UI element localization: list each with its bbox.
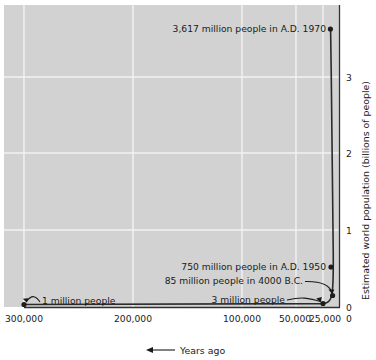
x-axis-title: Years ago bbox=[179, 345, 225, 356]
x-tick-label-0: 0 bbox=[346, 313, 352, 324]
y-tick-label-1: 1 bbox=[346, 225, 352, 236]
x-tick-label-200000: 200,000 bbox=[114, 313, 152, 324]
x-tick-label-300000: 300,000 bbox=[5, 313, 43, 324]
y-axis-title: Estimated world population (billions of … bbox=[360, 81, 371, 300]
annotation-3-million: 3 million people bbox=[212, 294, 286, 305]
annotation-1970: 3,617 million people in A.D. 1970 bbox=[173, 23, 327, 34]
data-point-300000-years-ago bbox=[21, 302, 26, 307]
annotation-1950: 750 million people in A.D. 1950 bbox=[181, 261, 326, 272]
chart-figure: 3,617 million people in A.D. 1970 750 mi… bbox=[0, 0, 376, 360]
data-point-4000-bc bbox=[330, 293, 335, 298]
y-tick-label-3: 3 bbox=[346, 72, 352, 83]
population-growth-chart: 3,617 million people in A.D. 1970 750 mi… bbox=[0, 0, 376, 360]
x-tick-label-100000: 100,000 bbox=[223, 313, 261, 324]
annotation-4000bc: 85 million people in 4000 B.C. bbox=[165, 275, 303, 286]
x-tick-label-50000: 50,000 bbox=[279, 313, 311, 324]
data-point-25000-years-ago bbox=[320, 301, 325, 306]
data-point-ad-1950 bbox=[328, 264, 333, 269]
y-tick-label-0: 0 bbox=[346, 302, 352, 313]
data-point-ad-1970 bbox=[328, 26, 333, 31]
x-tick-label-25000: 25,000 bbox=[309, 313, 341, 324]
annotation-1-million: 1 million people bbox=[42, 295, 116, 306]
y-tick-label-2: 2 bbox=[346, 148, 352, 159]
